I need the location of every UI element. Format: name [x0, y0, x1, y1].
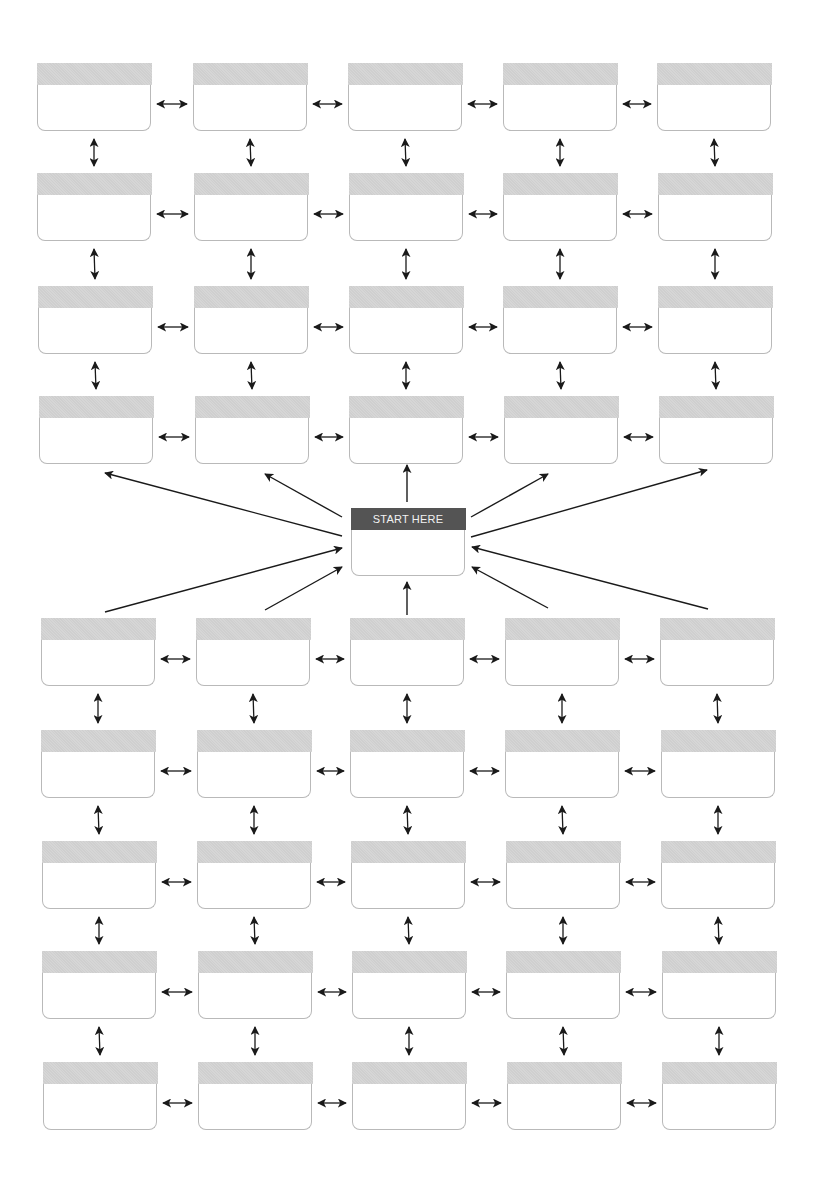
top-box-r4-c2[interactable] [195, 396, 309, 464]
box-header[interactable] [506, 951, 621, 973]
box-header[interactable] [41, 618, 156, 640]
box-body[interactable] [353, 1084, 465, 1129]
box-header[interactable] [41, 730, 156, 752]
box-header[interactable] [350, 730, 465, 752]
box-body[interactable] [195, 308, 307, 353]
box-body[interactable] [662, 863, 774, 908]
box-body[interactable] [194, 85, 306, 130]
box-body[interactable] [663, 973, 775, 1018]
box-header[interactable] [197, 730, 312, 752]
box-header[interactable] [503, 63, 618, 85]
bottom-box-r1-c1[interactable] [41, 618, 155, 686]
bottom-box-r2-c2[interactable] [197, 730, 311, 798]
box-body[interactable] [38, 195, 150, 240]
bottom-box-r3-c3[interactable] [351, 841, 465, 909]
box-header[interactable] [662, 951, 777, 973]
box-body[interactable] [504, 195, 616, 240]
box-header[interactable] [38, 286, 153, 308]
top-box-r1-c5[interactable] [657, 63, 771, 131]
box-body[interactable] [504, 85, 616, 130]
top-box-r3-c2[interactable] [194, 286, 308, 354]
top-box-r1-c2[interactable] [193, 63, 307, 131]
box-header[interactable] [349, 286, 464, 308]
top-box-r4-c5[interactable] [659, 396, 773, 464]
box-header[interactable] [352, 1062, 467, 1084]
top-box-r3-c1[interactable] [38, 286, 152, 354]
box-body[interactable] [349, 85, 461, 130]
box-body[interactable] [661, 640, 773, 685]
top-box-r2-c2[interactable] [194, 173, 308, 241]
box-header[interactable] [660, 618, 775, 640]
box-body[interactable] [353, 973, 465, 1018]
box-body[interactable] [508, 1084, 620, 1129]
bottom-box-r4-c2[interactable] [198, 951, 312, 1019]
bottom-box-r5-c1[interactable] [43, 1062, 157, 1130]
box-header[interactable] [505, 730, 620, 752]
box-header[interactable] [504, 396, 619, 418]
box-body[interactable] [505, 418, 617, 463]
box-body[interactable] [351, 752, 463, 797]
box-body[interactable] [506, 752, 618, 797]
box-header[interactable] [197, 841, 312, 863]
bottom-box-r3-c1[interactable] [42, 841, 156, 909]
box-body[interactable] [40, 418, 152, 463]
bottom-box-r3-c5[interactable] [661, 841, 775, 909]
top-box-r1-c3[interactable] [348, 63, 462, 131]
box-body[interactable] [199, 973, 311, 1018]
box-body[interactable] [199, 1084, 311, 1129]
box-header[interactable] [42, 951, 157, 973]
bottom-box-r2-c1[interactable] [41, 730, 155, 798]
bottom-box-r1-c2[interactable] [196, 618, 310, 686]
top-box-r2-c4[interactable] [503, 173, 617, 241]
box-body[interactable] [39, 308, 151, 353]
start-here-body[interactable] [352, 530, 464, 575]
top-box-r4-c1[interactable] [39, 396, 153, 464]
bottom-box-r1-c3[interactable] [350, 618, 464, 686]
box-body[interactable] [350, 195, 462, 240]
box-body[interactable] [44, 1084, 156, 1129]
bottom-box-r4-c4[interactable] [506, 951, 620, 1019]
box-body[interactable] [658, 85, 770, 130]
bottom-box-r2-c3[interactable] [350, 730, 464, 798]
box-body[interactable] [504, 308, 616, 353]
box-header[interactable] [195, 396, 310, 418]
box-header[interactable] [659, 396, 774, 418]
box-body[interactable] [507, 973, 619, 1018]
box-header[interactable] [661, 841, 776, 863]
start-here-box[interactable]: START HERE [351, 508, 465, 576]
box-header[interactable] [503, 286, 618, 308]
box-body[interactable] [659, 195, 771, 240]
box-body[interactable] [43, 863, 155, 908]
box-header[interactable] [37, 173, 152, 195]
box-body[interactable] [506, 640, 618, 685]
top-box-r3-c3[interactable] [349, 286, 463, 354]
top-box-r4-c4[interactable] [504, 396, 618, 464]
box-body[interactable] [350, 308, 462, 353]
box-body[interactable] [662, 752, 774, 797]
box-header[interactable] [198, 951, 313, 973]
box-body[interactable] [198, 752, 310, 797]
box-body[interactable] [663, 1084, 775, 1129]
box-body[interactable] [350, 418, 462, 463]
bottom-box-r4-c5[interactable] [662, 951, 776, 1019]
box-header[interactable] [658, 286, 773, 308]
box-header[interactable] [348, 63, 463, 85]
top-box-r1-c1[interactable] [37, 63, 151, 131]
box-header[interactable] [198, 1062, 313, 1084]
box-header[interactable] [352, 951, 467, 973]
top-box-r2-c1[interactable] [37, 173, 151, 241]
bottom-box-r2-c4[interactable] [505, 730, 619, 798]
box-header[interactable] [43, 1062, 158, 1084]
box-body[interactable] [43, 973, 155, 1018]
box-header[interactable] [42, 841, 157, 863]
box-header[interactable] [196, 618, 311, 640]
bottom-box-r4-c1[interactable] [42, 951, 156, 1019]
box-body[interactable] [195, 195, 307, 240]
top-box-r1-c4[interactable] [503, 63, 617, 131]
top-box-r3-c5[interactable] [658, 286, 772, 354]
top-box-r3-c4[interactable] [503, 286, 617, 354]
bottom-box-r1-c4[interactable] [505, 618, 619, 686]
box-body[interactable] [351, 640, 463, 685]
box-header[interactable] [349, 173, 464, 195]
bottom-box-r5-c3[interactable] [352, 1062, 466, 1130]
